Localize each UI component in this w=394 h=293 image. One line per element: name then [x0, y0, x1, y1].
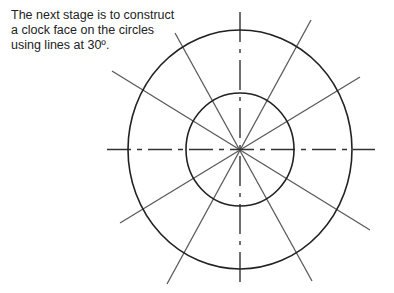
- radial-lines: [112, 20, 370, 284]
- center-lines: [107, 12, 375, 287]
- clock-face-diagram: [0, 0, 394, 293]
- radial-line-120deg: [167, 20, 311, 284]
- radial-line-60deg: [175, 33, 312, 281]
